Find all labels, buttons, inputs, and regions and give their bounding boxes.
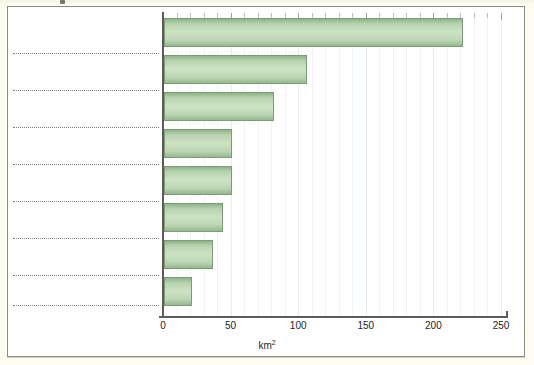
x-axis-title: km2 xyxy=(0,339,534,351)
title-descender-remnant xyxy=(60,0,65,4)
gridline xyxy=(393,13,394,316)
gridline xyxy=(447,13,448,316)
gridline xyxy=(325,13,326,316)
bar xyxy=(164,92,274,121)
gridline xyxy=(312,13,313,316)
bar xyxy=(164,203,223,232)
gridline xyxy=(366,13,367,316)
category-rule xyxy=(13,238,161,239)
category-rule xyxy=(13,201,161,202)
bar xyxy=(164,240,213,269)
x-axis-line xyxy=(159,316,508,318)
x-axis-title-text: km xyxy=(258,340,271,351)
gridline xyxy=(406,13,407,316)
category-rule xyxy=(13,275,161,276)
bar xyxy=(164,18,463,47)
bar xyxy=(164,129,232,158)
x-axis-endcap xyxy=(506,311,508,318)
gridline xyxy=(339,13,340,316)
x-tick-label: 50 xyxy=(225,320,236,331)
gridline xyxy=(352,13,353,316)
x-tick-label: 100 xyxy=(290,320,307,331)
top-tick xyxy=(501,13,502,20)
x-tick-label: 250 xyxy=(493,320,510,331)
bar xyxy=(164,55,307,84)
scan-top-band xyxy=(0,0,534,3)
gridline xyxy=(433,13,434,316)
gridline xyxy=(487,13,488,316)
category-rule xyxy=(13,305,161,306)
x-tick-label: 0 xyxy=(160,320,166,331)
gridline xyxy=(501,13,502,316)
gridline xyxy=(420,13,421,316)
top-tick xyxy=(487,13,488,18)
x-tick-label: 150 xyxy=(357,320,374,331)
x-axis-title-exponent: 2 xyxy=(272,339,276,346)
category-rule xyxy=(13,164,161,165)
plot-area xyxy=(159,13,512,316)
category-rule xyxy=(13,53,161,54)
category-label-pane xyxy=(8,7,159,356)
gridline xyxy=(460,13,461,316)
bar xyxy=(164,166,232,195)
figure-page: 050100150200250 km2 xyxy=(0,0,534,365)
category-rule xyxy=(13,127,161,128)
top-tick xyxy=(474,13,475,18)
gridline xyxy=(474,13,475,316)
category-rule xyxy=(13,90,161,91)
bar xyxy=(164,277,192,306)
x-tick-label: 200 xyxy=(425,320,442,331)
gridline xyxy=(379,13,380,316)
